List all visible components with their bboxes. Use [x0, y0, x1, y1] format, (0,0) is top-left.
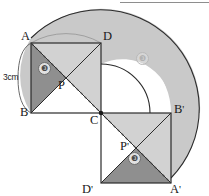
- prime-mark-D: ': [91, 183, 93, 195]
- prime-mark-P: ': [127, 140, 129, 152]
- region-mark-upper-triangle: ❸: [38, 62, 51, 75]
- point-label-B: B: [20, 106, 28, 119]
- lower-square-CB-A-D: [101, 113, 171, 183]
- geometry-figure: A D B C P B' A' D' P' 3cm ❸ ❸ ❸: [0, 0, 209, 196]
- dimension-label-3cm: 3cm: [3, 73, 18, 82]
- point-label-P-prime: P': [120, 140, 129, 153]
- point-label-D: D: [103, 30, 112, 43]
- point-label-C: C: [90, 114, 98, 127]
- centre-point-marker-C: [99, 111, 103, 115]
- prime-mark-B: ': [182, 103, 184, 115]
- point-label-A-prime: A': [170, 183, 181, 196]
- point-label-B-prime: B': [174, 103, 184, 116]
- prime-mark-A: ': [179, 183, 181, 195]
- region-mark-sector: ❸: [136, 52, 149, 65]
- point-label-P: P: [58, 79, 65, 92]
- region-mark-lower-triangle: ❸: [128, 152, 141, 165]
- point-label-A-prime-base: A: [170, 182, 179, 196]
- point-label-A: A: [21, 30, 30, 43]
- point-label-P-prime-base: P: [120, 139, 127, 153]
- point-label-D-prime: D': [82, 183, 93, 196]
- point-label-D-prime-base: D: [82, 182, 91, 196]
